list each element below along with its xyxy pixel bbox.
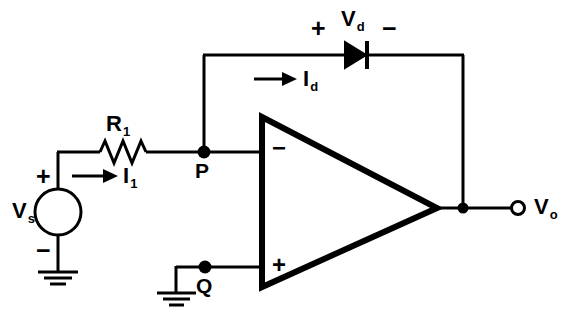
output-label: Vo [534, 196, 557, 218]
node-q-label: Q [196, 275, 212, 296]
current-i1-label-main: I [123, 163, 129, 188]
current-i1-label-subscript: 1 [130, 176, 137, 191]
current-id-label: Id [303, 68, 317, 90]
source-minus-sign: − [36, 238, 51, 263]
node-p-label: P [195, 160, 209, 181]
voltage-source-symbol [35, 189, 81, 235]
output-label-main: V [534, 194, 549, 219]
diode-minus-sign: − [382, 16, 397, 41]
resistor-zigzag [100, 141, 146, 163]
resistor-label-main: R [106, 111, 122, 136]
diode-voltage-label-main: V [341, 6, 356, 31]
source-label-main: V [12, 198, 27, 223]
output-label-subscript: o [550, 207, 558, 222]
circuit-diagram: Vs + − R1 I1 Id + Vd − P Q − + Vo [0, 0, 568, 311]
diode-voltage-label-subscript: d [357, 19, 365, 34]
opamp-inverting-sign: − [272, 136, 286, 160]
current-id-label-subscript: d [310, 79, 318, 94]
resistor-label-subscript: 1 [123, 124, 130, 139]
output-node-dot [458, 203, 469, 214]
diode-anode-triangle [345, 42, 366, 68]
current-id-arrow-head [282, 72, 297, 86]
opamp-noninverting-sign: + [272, 253, 286, 277]
current-i1-arrow-head [103, 169, 118, 183]
current-id-label-main: I [303, 66, 309, 91]
current-i1-label: I1 [123, 165, 136, 187]
opamp-triangle [262, 117, 437, 287]
source-plus-sign: + [36, 164, 51, 189]
source-label-subscript: s [28, 211, 35, 226]
source-label: Vs [12, 200, 34, 222]
resistor-label: R1 [106, 113, 129, 135]
diode-voltage-label: Vd [341, 8, 364, 30]
output-terminal-circle [512, 202, 525, 215]
diode-plus-sign: + [311, 16, 326, 41]
